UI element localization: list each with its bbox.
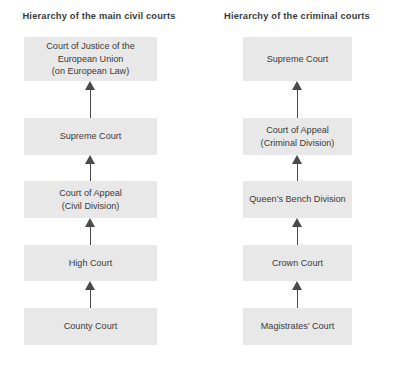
civil-arrow-high-to-appeal — [85, 218, 96, 245]
arrow-stem — [297, 289, 299, 308]
arrow-stem — [90, 289, 92, 308]
criminal-arrow-appeal-to-supreme — [292, 81, 303, 118]
civil-node-supreme-court: Supreme Court — [24, 118, 157, 155]
arrow-stem — [90, 226, 92, 245]
node-line: High Court — [69, 257, 112, 269]
criminal-column-title: Hierarchy of the criminal courts — [198, 11, 396, 21]
node-line: Magistrates’ Court — [261, 320, 334, 332]
criminal-arrow-qbd-to-appeal — [292, 155, 303, 181]
civil-node-county-court: County Court — [24, 308, 157, 345]
civil-node-court-of-justice-eu: Court of Justice of the European Union (… — [24, 37, 157, 81]
criminal-node-supreme-court: Supreme Court — [243, 37, 352, 81]
civil-column-title: Hierarchy of the main civil courts — [0, 11, 198, 21]
node-line: (Criminal Division) — [261, 137, 335, 149]
civil-arrow-supreme-to-cjeu — [85, 81, 96, 118]
node-line: (Civil Division) — [59, 200, 122, 212]
criminal-node-court-of-appeal: Court of Appeal (Criminal Division) — [243, 118, 352, 155]
criminal-arrow-magistrates-to-crown — [292, 281, 303, 308]
criminal-courts-column: Hierarchy of the criminal courts Supreme… — [198, 0, 396, 371]
court-hierarchy-diagram: Hierarchy of the main civil courts Court… — [0, 0, 396, 371]
node-line: European Union — [46, 53, 134, 65]
node-line: Queen’s Bench Division — [249, 193, 345, 205]
node-line: Court of Appeal — [59, 187, 122, 199]
arrow-stem — [297, 226, 299, 245]
civil-courts-column: Hierarchy of the main civil courts Court… — [0, 0, 198, 371]
node-line: Crown Court — [272, 257, 323, 269]
arrow-stem — [90, 163, 92, 181]
node-line: County Court — [64, 320, 118, 332]
arrow-stem — [90, 89, 92, 118]
node-line: Court of Appeal — [261, 124, 335, 136]
node-line: (on European Law) — [46, 65, 134, 77]
civil-arrow-county-to-high — [85, 281, 96, 308]
criminal-node-queens-bench-division: Queen’s Bench Division — [243, 181, 352, 218]
criminal-arrow-crown-to-qbd — [292, 218, 303, 245]
criminal-node-magistrates-court: Magistrates’ Court — [243, 308, 352, 345]
arrow-stem — [297, 89, 299, 118]
node-line: Court of Justice of the — [46, 40, 134, 52]
criminal-node-crown-court: Crown Court — [243, 245, 352, 281]
civil-node-high-court: High Court — [24, 245, 157, 281]
arrow-stem — [297, 163, 299, 181]
civil-arrow-appeal-to-supreme — [85, 155, 96, 181]
civil-node-court-of-appeal: Court of Appeal (Civil Division) — [24, 181, 157, 218]
node-line: Supreme Court — [60, 130, 122, 142]
node-line: Supreme Court — [267, 53, 329, 65]
